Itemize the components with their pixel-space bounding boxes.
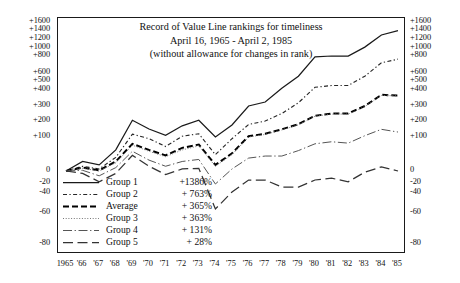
x-tick-label: '72: [176, 259, 186, 269]
y-tick-label: +100: [33, 131, 50, 140]
y-tick-label: 0: [46, 165, 50, 174]
legend-value: + 365%: [164, 200, 212, 212]
y-tick-label: +500: [33, 75, 50, 84]
x-tick-label: '74: [209, 259, 219, 269]
legend-label: Average: [106, 200, 164, 212]
y-tick-label: +1200: [410, 33, 431, 42]
y-tick-label: -60: [39, 207, 50, 216]
y-tick-label: +800: [410, 50, 427, 59]
legend-line-swatch: [62, 177, 100, 188]
legend-line-swatch: [62, 189, 100, 200]
legend-value: + 363%: [164, 212, 212, 224]
y-axis-right: +1600+1400+1200+1000+800+600+500+400+300…: [408, 0, 454, 283]
y-tick-label: +100: [410, 131, 427, 140]
y-tick-label: +300: [33, 100, 50, 109]
x-tick-label: '78: [276, 259, 286, 269]
title-line-1: Record of Value Line rankings for timeli…: [70, 20, 392, 34]
series-line-group-3: [66, 95, 398, 171]
y-tick-label: +500: [410, 75, 427, 84]
legend-row: Group 1+1386%: [62, 176, 242, 188]
y-tick-label: +400: [33, 84, 50, 93]
legend-line-swatch: [62, 201, 100, 212]
y-tick-label: -80: [39, 238, 50, 247]
x-tick-label: '73: [193, 259, 203, 269]
legend-line-swatch: [62, 213, 100, 224]
y-tick-label: -60: [410, 207, 421, 216]
y-tick-label: -40: [410, 187, 421, 196]
legend-line-swatch: [62, 225, 100, 236]
x-tick-label: '66: [77, 259, 87, 269]
y-tick-label: -20: [410, 177, 421, 186]
x-tick-label: '80: [309, 259, 319, 269]
legend-value: +1386%: [164, 176, 212, 188]
y-axis-left: +1600+1400+1200+1000+800+600+500+400+300…: [6, 0, 52, 283]
y-tick-label: +400: [410, 84, 427, 93]
y-tick-label: +1400: [29, 24, 50, 33]
x-tick-label: 1965: [57, 259, 74, 269]
x-tick-label: '75: [226, 259, 236, 269]
legend-row: Average+ 365%: [62, 200, 242, 212]
chart-legend: Group 1+1386%Group 2+ 763%Average+ 365%G…: [62, 176, 242, 249]
legend-row: Group 3+ 363%: [62, 212, 242, 224]
x-tick-label: '85: [392, 259, 402, 269]
x-tick-label: '67: [93, 259, 103, 269]
x-tick-label: '70: [143, 259, 153, 269]
y-tick-label: -80: [410, 238, 421, 247]
x-tick-label: '82: [342, 259, 352, 269]
y-tick-label: +200: [410, 115, 427, 124]
x-tick-label: '68: [110, 259, 120, 269]
legend-value: + 131%: [164, 224, 212, 236]
legend-row: Group 4+ 131%: [62, 224, 242, 236]
x-tick-label: '77: [259, 259, 269, 269]
x-tick-label: '84: [375, 259, 385, 269]
title-line-3: (without allowance for changes in rank): [70, 47, 392, 61]
legend-row: Group 5+ 28%: [62, 236, 242, 248]
chart-title: Record of Value Line rankings for timeli…: [70, 20, 392, 61]
legend-label: Group 3: [106, 212, 164, 224]
y-tick-label: +1200: [29, 33, 50, 42]
series-line-average: [66, 95, 398, 171]
y-tick-label: +800: [33, 50, 50, 59]
legend-value: + 763%: [164, 188, 212, 200]
y-tick-label: -20: [39, 177, 50, 186]
legend-line-swatch: [62, 237, 100, 248]
y-tick-label: +1400: [410, 24, 431, 33]
x-axis: 1965'66'67'68'69'70'71'72'73'74'75'76'77…: [57, 259, 405, 275]
chart-root: +1600+1400+1200+1000+800+600+500+400+300…: [0, 0, 460, 283]
x-tick-label: '69: [126, 259, 136, 269]
y-tick-label: +200: [33, 115, 50, 124]
legend-label: Group 1: [106, 176, 164, 188]
x-tick-label: '81: [326, 259, 336, 269]
legend-label: Group 2: [106, 188, 164, 200]
title-line-2: April 16, 1965 - April 2, 1985: [70, 34, 392, 48]
legend-label: Group 4: [106, 224, 164, 236]
legend-value: + 28%: [164, 236, 212, 248]
legend-label: Group 5: [106, 236, 164, 248]
y-tick-label: -40: [39, 187, 50, 196]
x-tick-label: '83: [359, 259, 369, 269]
x-tick-label: '76: [243, 259, 253, 269]
legend-row: Group 2+ 763%: [62, 188, 242, 200]
y-tick-label: +300: [410, 100, 427, 109]
x-tick-label: '79: [292, 259, 302, 269]
y-tick-label: 0: [410, 165, 414, 174]
x-tick-label: '71: [160, 259, 170, 269]
